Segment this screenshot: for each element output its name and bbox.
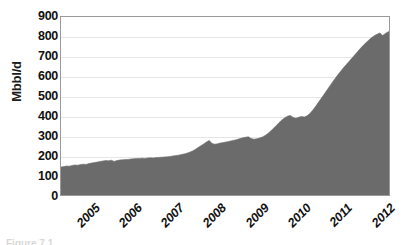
x-axis-tick-2007: 2007	[158, 201, 187, 230]
y-axis-tick-0: 0	[28, 190, 58, 203]
y-axis-tick-400: 400	[28, 110, 58, 123]
y-axis-tick-labels: 9008007006005004003002001000	[28, 16, 58, 196]
x-axis-tick-2010: 2010	[285, 201, 314, 230]
y-axis-tick-900: 900	[28, 10, 58, 23]
x-axis-tick-2005: 2005	[74, 201, 103, 230]
y-axis-title: Mbbl/d	[9, 52, 24, 112]
y-axis-tick-800: 800	[28, 30, 58, 43]
area-series	[61, 17, 390, 196]
x-axis-tick-2011: 2011	[327, 201, 355, 229]
figure-caption: Figure 7.1	[6, 238, 53, 245]
x-axis-tick-2008: 2008	[200, 201, 229, 230]
x-axis-tick-2006: 2006	[116, 201, 145, 230]
plot-area	[60, 16, 390, 196]
y-axis-tick-300: 300	[28, 130, 58, 143]
area-series-path	[61, 31, 390, 196]
y-axis-tick-200: 200	[28, 150, 58, 163]
chart-figure: Mbbl/d 9008007006005004003002001000 2005…	[0, 0, 407, 245]
y-axis-tick-100: 100	[28, 170, 58, 183]
x-axis-tick-2012: 2012	[369, 201, 398, 230]
y-axis-tick-600: 600	[28, 70, 58, 83]
x-axis-tick-2009: 2009	[242, 201, 271, 230]
y-axis-tick-500: 500	[28, 90, 58, 103]
y-axis-tick-700: 700	[28, 50, 58, 63]
